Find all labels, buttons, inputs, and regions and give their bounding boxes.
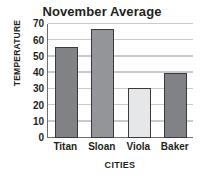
y-tick-label-30: 30 bbox=[33, 83, 44, 94]
bar-chart: November Average TEMPERATURE 70605040302… bbox=[0, 0, 204, 179]
bars-group bbox=[48, 24, 193, 138]
plot-area: 706050403020100 bbox=[47, 24, 193, 138]
y-tick-label-10: 10 bbox=[33, 116, 44, 127]
x-tick-label-sloan: Sloan bbox=[84, 141, 121, 152]
y-axis-label: TEMPERATURE bbox=[12, 8, 22, 98]
y-tick-label-50: 50 bbox=[33, 50, 44, 61]
bar-viola bbox=[128, 88, 151, 138]
bar-titan bbox=[55, 47, 78, 138]
x-axis-label: CITIES bbox=[47, 160, 193, 170]
x-axis-categories: TitanSloanViolaBaker bbox=[47, 141, 193, 155]
y-tick-label-20: 20 bbox=[33, 99, 44, 110]
bar-baker bbox=[164, 73, 187, 138]
bar-sloan bbox=[91, 29, 114, 138]
x-tick-label-titan: Titan bbox=[47, 141, 84, 152]
y-tick-label-60: 60 bbox=[33, 34, 44, 45]
x-tick-label-baker: Baker bbox=[157, 141, 194, 152]
y-tick-label-0: 0 bbox=[38, 132, 44, 143]
y-tick-label-40: 40 bbox=[33, 67, 44, 78]
chart-title: November Average bbox=[0, 4, 204, 19]
y-tick-label-70: 70 bbox=[33, 18, 44, 29]
x-tick-label-viola: Viola bbox=[120, 141, 157, 152]
